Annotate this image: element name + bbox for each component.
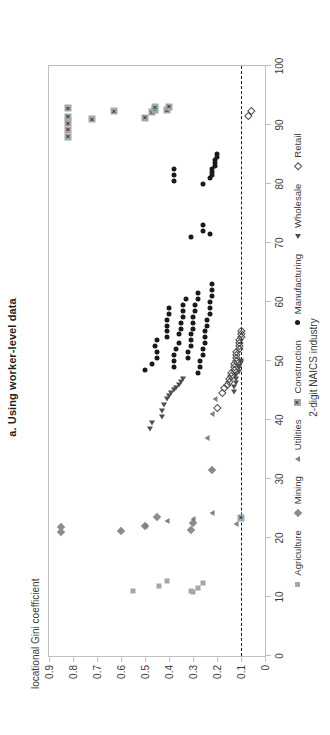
data-point-manufacturing (193, 308, 198, 313)
x-axis-tick-label: 70 (274, 237, 285, 248)
data-point-agriculture (188, 588, 193, 593)
x-axis-tick-label: 10 (274, 591, 285, 602)
legend-marker-manufacturing (293, 318, 302, 327)
data-point-manufacturing (181, 314, 186, 319)
data-point-manufacturing (176, 332, 181, 337)
data-point-manufacturing (174, 347, 179, 352)
data-point-manufacturing (210, 282, 215, 287)
data-point-manufacturing (195, 297, 200, 302)
data-point-construction: ✕ (142, 114, 149, 121)
legend-label: Retail (292, 133, 303, 157)
x-axis-tick-label: 20 (274, 532, 285, 543)
x-axis-tick (265, 360, 271, 361)
data-point-manufacturing (200, 353, 205, 358)
legend-item-agriculture[interactable]: Agriculture (292, 530, 303, 588)
data-point-agriculture (200, 581, 205, 586)
data-point-manufacturing (152, 344, 157, 349)
y-axis-tick-label: 0.9 (44, 665, 55, 679)
data-point-manufacturing (164, 317, 169, 322)
legend-item-mining[interactable]: Mining (292, 476, 303, 517)
data-point-mining (117, 527, 125, 535)
x-axis-tick-label: 40 (274, 414, 285, 425)
data-point-utilities (210, 411, 215, 417)
legend-item-utilities[interactable]: Utilities (292, 420, 303, 464)
x-axis-tick-label: 30 (274, 473, 285, 484)
y-axis-tick-label: 0.1 (236, 665, 247, 679)
data-point-manufacturing (215, 152, 220, 157)
legend-label: Agriculture (292, 530, 303, 575)
data-point-agriculture (131, 589, 136, 594)
x-axis-tick (265, 183, 271, 184)
x-axis-tick (265, 478, 271, 479)
y-axis-tick (217, 656, 218, 662)
data-point-manufacturing (155, 338, 160, 343)
data-point-manufacturing (207, 305, 212, 310)
data-point-construction: ✕ (238, 514, 245, 521)
data-point-manufacturing (183, 297, 188, 302)
y-axis-tick (121, 656, 122, 662)
data-point-manufacturing (171, 173, 176, 178)
data-point-utilities (143, 523, 148, 529)
marker-layer: ✕✕✕✕✕✕✕✕✕✕✕✕✕✕ (49, 66, 265, 656)
data-point-manufacturing (205, 317, 210, 322)
x-axis-tick-label: 60 (274, 296, 285, 307)
x-axis-tick-label: 50 (274, 355, 285, 366)
legend-marker-agriculture (293, 580, 302, 589)
legend-marker-construction: ✕ (293, 398, 302, 407)
data-point-manufacturing (195, 291, 200, 296)
data-point-construction: ✕ (65, 126, 72, 133)
data-point-manufacturing (198, 359, 203, 364)
data-point-manufacturing (200, 347, 205, 352)
data-point-manufacturing (186, 350, 191, 355)
legend-label: Construction (292, 340, 303, 393)
chart-title: a. Using worker-level data (6, 0, 18, 735)
data-point-manufacturing (167, 311, 172, 316)
data-point-construction: ✕ (65, 120, 72, 127)
y-axis-tick (49, 656, 50, 662)
data-point-wholesale (180, 376, 186, 381)
data-point-manufacturing (203, 329, 208, 334)
data-point-manufacturing (207, 311, 212, 316)
y-axis-tick-label: 0.7 (92, 665, 103, 679)
data-point-construction: ✕ (65, 133, 72, 140)
data-point-manufacturing (207, 300, 212, 305)
data-point-manufacturing (205, 323, 210, 328)
data-point-utilities (164, 518, 169, 524)
plot-area: ✕✕✕✕✕✕✕✕✕✕✕✕✕✕ 010203040506070809010000.… (48, 65, 266, 657)
x-axis-tick-label: 90 (274, 119, 285, 130)
y-axis-tick-label: 0.6 (116, 665, 127, 679)
data-point-manufacturing (171, 364, 176, 369)
y-axis-tick-label: 0.8 (68, 665, 79, 679)
data-point-manufacturing (188, 332, 193, 337)
data-point-construction: ✕ (166, 103, 173, 110)
legend-item-construction[interactable]: ✕Construction (292, 340, 303, 406)
legend-label: Utilities (292, 420, 303, 451)
data-point-agriculture (157, 583, 162, 588)
data-point-manufacturing (191, 320, 196, 325)
data-point-agriculture (195, 586, 200, 591)
data-point-construction: ✕ (151, 104, 158, 111)
data-point-manufacturing (150, 361, 155, 366)
legend-item-retail[interactable]: Retail (292, 133, 303, 170)
data-point-manufacturing (164, 323, 169, 328)
y-axis-tick-label: 0.3 (188, 665, 199, 679)
y-axis-tick (241, 656, 242, 662)
data-point-construction: ✕ (65, 113, 72, 120)
data-point-manufacturing (188, 338, 193, 343)
data-point-manufacturing (200, 182, 205, 187)
y-axis-tick (193, 656, 194, 662)
x-axis-tick (265, 537, 271, 538)
chart-legend: AgricultureMiningUtilities✕ConstructionM… (292, 65, 303, 657)
data-point-construction: ✕ (110, 108, 117, 115)
legend-item-wholesale[interactable]: Wholesale (292, 184, 303, 241)
x-axis-tick (265, 419, 271, 420)
legend-item-manufacturing[interactable]: Manufacturing (292, 254, 303, 327)
data-point-agriculture (164, 579, 169, 584)
data-point-manufacturing (210, 294, 215, 299)
data-point-manufacturing (203, 341, 208, 346)
data-point-manufacturing (210, 288, 215, 293)
y-axis-tick-label: 0.2 (212, 665, 223, 679)
data-point-manufacturing (143, 367, 148, 372)
data-point-wholesale (231, 389, 237, 394)
data-point-manufacturing (171, 353, 176, 358)
